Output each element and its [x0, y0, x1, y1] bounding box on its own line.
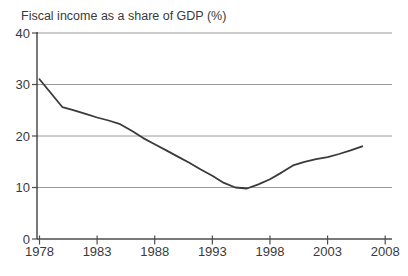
y-tick-label-40: 40 — [16, 26, 30, 41]
chart-title: Fiscal income as a share of GDP (%) — [21, 9, 226, 23]
x-tick-label-1978: 1978 — [25, 244, 54, 259]
x-tick-label-1988: 1988 — [140, 244, 169, 259]
fiscal-income-line-chart: 0102030401978198319881993199820032008 Fi… — [0, 0, 408, 276]
x-tick-label-1983: 1983 — [83, 244, 112, 259]
fiscal-income-series-line — [40, 79, 363, 188]
x-tick-label-1998: 1998 — [256, 244, 285, 259]
y-tick-label-30: 30 — [16, 77, 30, 92]
x-tick-label-1993: 1993 — [198, 244, 227, 259]
gridlines — [37, 33, 392, 188]
y-tick-label-10: 10 — [16, 180, 30, 195]
tick-marks — [32, 33, 385, 245]
y-tick-label-20: 20 — [16, 129, 30, 144]
tick-labels: 0102030401978198319881993199820032008 — [16, 26, 400, 260]
x-tick-label-2003: 2003 — [313, 244, 342, 259]
fiscal-income-figure: 0102030401978198319881993199820032008 Fi… — [0, 0, 408, 276]
x-tick-label-2008: 2008 — [371, 244, 400, 259]
